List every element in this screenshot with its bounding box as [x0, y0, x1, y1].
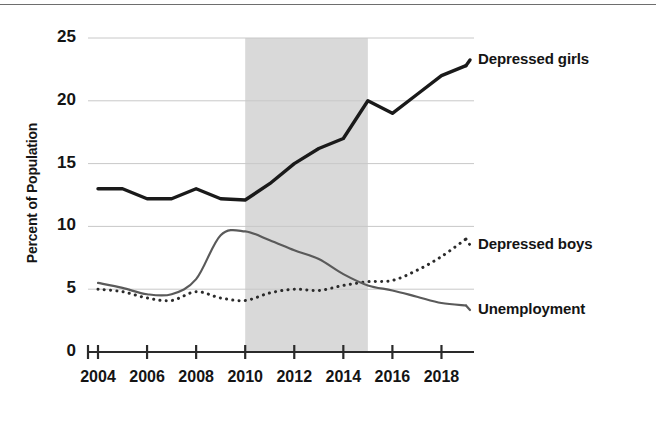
label-leader-lines: [466, 60, 470, 310]
top-divider-rule: [0, 4, 656, 5]
y-axis-title: Percent of Population: [24, 83, 40, 303]
y-tick-label: 5: [30, 278, 76, 298]
series-label-unemployment: Unemployment: [478, 300, 585, 317]
chart-figure: Percent of Population 0510152025 2004200…: [0, 0, 656, 430]
y-tick-label: 10: [30, 215, 76, 235]
y-tick-label: 0: [30, 341, 76, 361]
y-tick-label: 15: [30, 153, 76, 173]
y-tick-label: 20: [30, 90, 76, 110]
series-label-depressed-girls: Depressed girls: [478, 50, 589, 67]
recession-shading: [245, 38, 368, 352]
x-tick-label: 2018: [411, 368, 471, 386]
series-label-depressed-boys: Depressed boys: [478, 235, 592, 252]
y-tick-label: 25: [30, 27, 76, 47]
